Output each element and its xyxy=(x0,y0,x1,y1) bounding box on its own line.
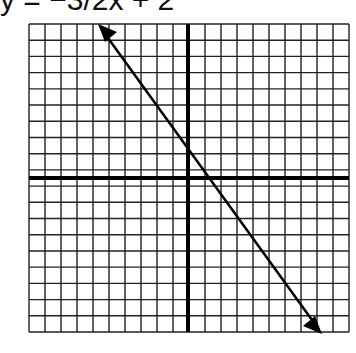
coordinate-grid xyxy=(0,0,356,353)
arrow-up-icon xyxy=(98,24,117,42)
